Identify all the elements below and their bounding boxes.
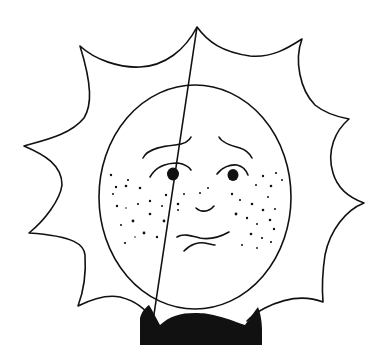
mouth-upper-lip xyxy=(177,232,229,239)
sun-illustration xyxy=(0,0,388,364)
black-collar xyxy=(140,305,262,345)
right-eyebrow xyxy=(219,137,252,158)
right-eye xyxy=(228,169,239,181)
face-outline xyxy=(99,85,291,309)
left-eyebrow xyxy=(143,137,191,158)
mouth-lower-lip xyxy=(184,243,215,251)
nose xyxy=(196,206,214,211)
sun-rays-outline xyxy=(24,27,364,321)
left-eye xyxy=(167,168,179,181)
